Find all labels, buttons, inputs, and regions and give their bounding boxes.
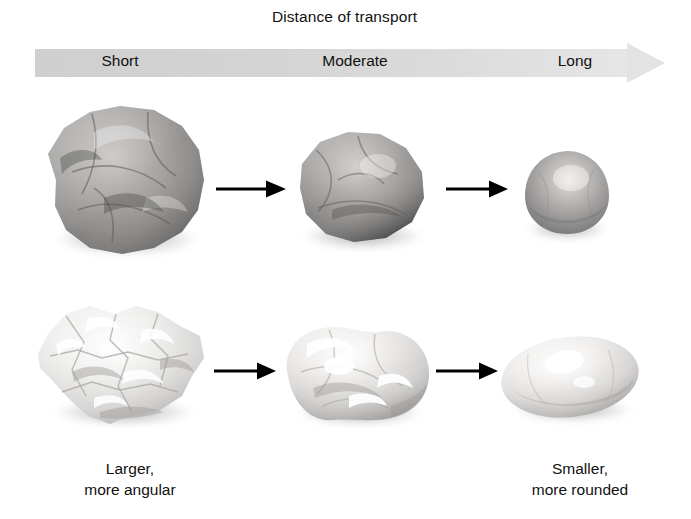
scale-label-moderate: Moderate [285, 52, 425, 70]
rock-shape [292, 126, 430, 250]
caption-left: Larger, more angular [30, 458, 230, 500]
rock-light-moderate-subrounded [283, 322, 433, 428]
scale-label-long: Long [520, 52, 630, 70]
caption-left-line2: more angular [30, 479, 230, 500]
rock-shape [521, 146, 613, 240]
arrow-right-icon [216, 178, 288, 200]
rock-dark-long-rounded [521, 146, 613, 240]
page-title: Distance of transport [0, 8, 691, 26]
rock-dark-short-angular [42, 102, 210, 260]
diagram-title-text: Distance of transport [272, 8, 417, 26]
caption-right-line2: more rounded [480, 479, 680, 500]
rock-shape [42, 102, 210, 260]
rock-light-long-rounded [498, 332, 644, 424]
caption-right-line1: Smaller, [480, 458, 680, 479]
rock-shape [32, 300, 208, 434]
rock-shape [498, 332, 644, 424]
rock-light-short-angular [32, 300, 208, 434]
scale-label-short: Short [60, 52, 180, 70]
arrow-right-icon [436, 360, 500, 382]
transport-scale-arrowhead [627, 43, 665, 83]
rock-shape [283, 322, 433, 428]
arrow-right-icon [446, 178, 510, 200]
caption-left-line1: Larger, [30, 458, 230, 479]
caption-right: Smaller, more rounded [480, 458, 680, 500]
rock-dark-moderate-subrounded [292, 126, 430, 250]
arrow-right-icon [214, 360, 278, 382]
